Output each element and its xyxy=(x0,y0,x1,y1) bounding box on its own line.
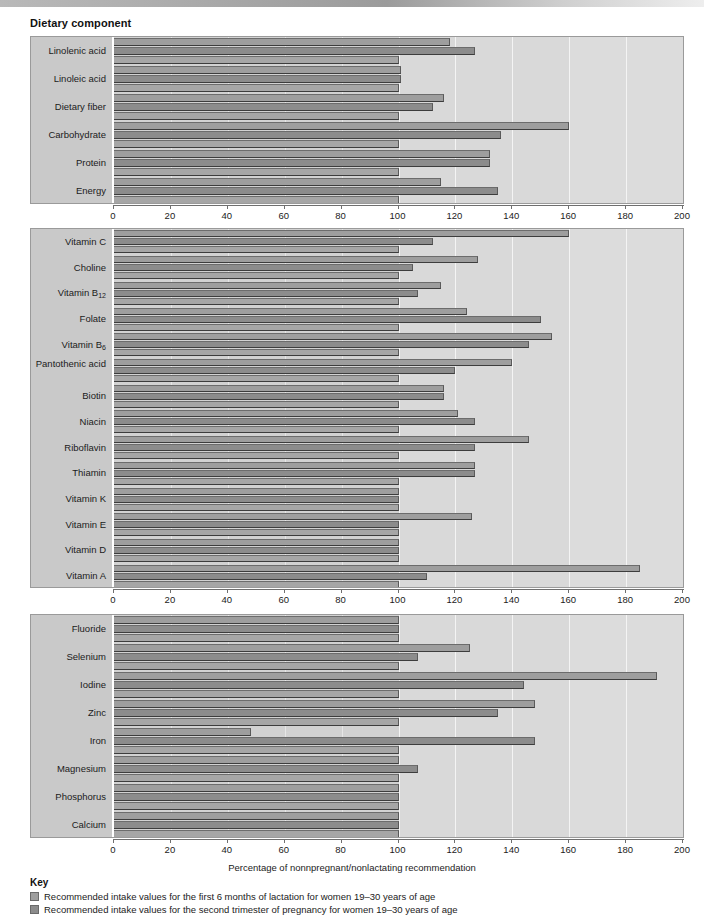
x-tick-40 xyxy=(227,205,228,209)
bar-group xyxy=(114,230,683,253)
x-tick-200 xyxy=(682,589,683,593)
bar-baseline xyxy=(114,830,399,837)
bar-pregnancy xyxy=(114,316,541,323)
bar-group xyxy=(114,513,683,536)
category-label: Choline xyxy=(74,263,106,273)
x-tick-label-20: 20 xyxy=(165,844,176,855)
category-label-subscript: 12 xyxy=(98,292,106,299)
bar-baseline xyxy=(114,662,399,670)
category-label: Carbohydrate xyxy=(48,130,106,140)
bar-group xyxy=(114,616,683,642)
bar-lactation xyxy=(114,150,490,158)
bar-pregnancy xyxy=(114,470,475,477)
bar-baseline xyxy=(114,504,399,511)
bar-lactation xyxy=(114,256,478,263)
category-label: Selenium xyxy=(66,652,106,662)
category-label: Iodine xyxy=(80,680,106,690)
bar-pregnancy xyxy=(114,75,401,83)
category-label: Folate xyxy=(80,314,106,324)
x-tick-60 xyxy=(284,839,285,843)
x-tick-label-180: 180 xyxy=(617,210,633,221)
category-label: Phosphorus xyxy=(55,792,106,802)
bar-pregnancy xyxy=(114,159,490,167)
x-tick-label-120: 120 xyxy=(446,844,462,855)
x-tick-100 xyxy=(398,205,399,209)
x-tick-label-120: 120 xyxy=(446,594,462,605)
category-label: Vitamin B6 xyxy=(62,340,106,351)
legend-label-pregnancy: Recommended intake values for the second… xyxy=(44,904,457,915)
bar-lactation xyxy=(114,728,251,736)
x-tick-140 xyxy=(511,205,512,209)
bar-pregnancy xyxy=(114,709,498,717)
x-tick-label-120: 120 xyxy=(446,210,462,221)
category-label: Protein xyxy=(76,158,106,168)
category-label: Pantothenic acid xyxy=(34,359,106,369)
bar-pregnancy xyxy=(114,47,475,55)
bar-lactation xyxy=(114,359,512,366)
category-label: Calcium xyxy=(72,820,106,830)
category-label: Biotin xyxy=(82,391,106,401)
category-label: Fluoride xyxy=(72,624,106,634)
bar-baseline xyxy=(114,196,399,203)
bar-baseline xyxy=(114,555,399,562)
bar-pregnancy xyxy=(114,264,413,271)
bar-group xyxy=(114,178,683,203)
x-tick-180 xyxy=(625,839,626,843)
bar-pregnancy xyxy=(114,521,399,528)
bar-lactation xyxy=(114,672,657,680)
category-label: Iron xyxy=(90,736,106,746)
x-tick-label-40: 40 xyxy=(222,844,233,855)
x-tick-40 xyxy=(227,589,228,593)
bar-pregnancy xyxy=(114,238,433,245)
x-tick-40 xyxy=(227,839,228,843)
x-tick-label-100: 100 xyxy=(390,844,406,855)
legend-entry-lactation: Recommended intake values for the first … xyxy=(30,891,457,902)
x-tick-label-20: 20 xyxy=(165,210,176,221)
x-tick-label-160: 160 xyxy=(560,210,576,221)
x-tick-20 xyxy=(170,839,171,843)
category-label: Vitamin E xyxy=(66,520,106,530)
x-tick-label-80: 80 xyxy=(335,210,346,221)
bar-baseline xyxy=(114,168,399,176)
bar-pregnancy xyxy=(114,131,501,139)
category-label-column-macronutrients: Linolenic acidLinoleic acidDietary fiber… xyxy=(31,37,113,203)
bar-group xyxy=(114,462,683,485)
bar-lactation xyxy=(114,38,450,46)
bar-lactation xyxy=(114,410,458,417)
x-tick-180 xyxy=(625,205,626,209)
x-tick-label-40: 40 xyxy=(222,594,233,605)
bar-baseline xyxy=(114,140,399,148)
legend-label-lactation: Recommended intake values for the first … xyxy=(44,891,435,902)
x-tick-160 xyxy=(568,839,569,843)
category-label: Energy xyxy=(76,186,106,196)
x-tick-80 xyxy=(341,205,342,209)
bar-lactation xyxy=(114,756,399,764)
bar-baseline xyxy=(114,634,399,642)
bar-group xyxy=(114,756,683,782)
category-label: Dietary fiber xyxy=(55,102,106,112)
bar-pregnancy xyxy=(114,367,455,374)
x-tick-160 xyxy=(568,205,569,209)
x-axis-caption: Percentage of nonnpregnant/nonlactating … xyxy=(0,862,704,873)
bar-lactation xyxy=(114,812,399,820)
bar-pregnancy xyxy=(114,737,535,745)
x-tick-160 xyxy=(568,589,569,593)
bar-group xyxy=(114,94,683,120)
bar-baseline xyxy=(114,690,399,698)
plot-area-vitamins xyxy=(114,229,683,587)
bar-baseline xyxy=(114,349,399,356)
bar-baseline xyxy=(114,802,399,810)
x-tick-20 xyxy=(170,205,171,209)
bar-baseline xyxy=(114,426,399,433)
category-label-column-vitamins: Vitamin CCholineVitamin B12FolateVitamin… xyxy=(31,229,113,587)
bar-lactation xyxy=(114,462,475,469)
bar-lactation xyxy=(114,565,640,572)
bar-group xyxy=(114,122,683,148)
x-tick-180 xyxy=(625,589,626,593)
category-label: Vitamin D xyxy=(65,545,106,555)
chart-legend: Key Recommended intake values for the fi… xyxy=(30,877,457,917)
legend-title: Key xyxy=(30,877,457,888)
bar-group xyxy=(114,812,683,837)
bar-pregnancy xyxy=(114,444,475,451)
x-tick-label-60: 60 xyxy=(278,844,289,855)
